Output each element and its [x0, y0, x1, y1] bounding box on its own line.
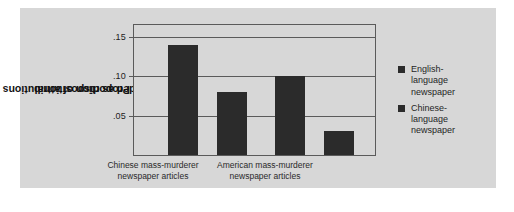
- x-category-label-american-articles: American mass-murderer newspaper article…: [200, 160, 330, 182]
- legend-label-english-line3: newspaper: [411, 87, 455, 97]
- legend-label-english: English- language newspaper: [411, 64, 455, 98]
- figure-panel: Proportion of attributions coded as disp…: [20, 8, 496, 188]
- legend-label-chinese: Chinese- language newspaper: [411, 103, 455, 137]
- x-category-label-chinese-line2: newspaper articles: [118, 171, 189, 181]
- x-category-label-american-line1: American mass-murderer: [217, 160, 313, 170]
- y-tick-label-015: .15: [113, 32, 126, 42]
- legend-item-chinese-language-newspaper: Chinese- language newspaper: [398, 103, 490, 137]
- legend-label-chinese-line1: Chinese-: [411, 103, 447, 113]
- bar-american-articles-chinese-newspaper: [324, 131, 354, 155]
- tick-mark-015: [129, 37, 134, 38]
- legend-label-english-line2: language: [411, 75, 448, 85]
- legend-label-chinese-line3: newspaper: [411, 125, 455, 135]
- x-category-label-chinese-line1: Chinese mass-murderer: [107, 160, 198, 170]
- y-tick-label-010: .10: [113, 71, 126, 81]
- legend-item-english-language-newspaper: English- language newspaper: [398, 64, 490, 98]
- y-axis-title: Proportion of attributions coded as disp…: [68, 24, 90, 156]
- bar-chinese-articles-english-newspaper: [168, 45, 198, 155]
- legend-label-chinese-line2: language: [411, 114, 448, 124]
- bar-chinese-articles-chinese-newspaper: [217, 92, 247, 155]
- tick-mark-010: [129, 76, 134, 77]
- legend-label-english-line1: English-: [411, 64, 444, 74]
- bar-american-articles-english-newspaper: [275, 76, 305, 155]
- y-tick-label-005: .05: [113, 111, 126, 121]
- legend-swatch-icon-english: [398, 66, 405, 73]
- gridline-015: [134, 37, 375, 38]
- legend: English- language newspaper Chinese- lan…: [398, 64, 490, 142]
- x-category-label-american-line2: newspaper articles: [230, 171, 301, 181]
- tick-mark-005: [129, 116, 134, 117]
- legend-swatch-icon-chinese: [398, 105, 405, 112]
- x-category-label-chinese-articles: Chinese mass-murderer newspaper articles: [88, 160, 218, 182]
- plot-area: .15 .10 .05: [133, 24, 376, 156]
